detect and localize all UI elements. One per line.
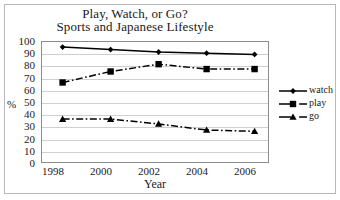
y-axis-tick: 60	[24, 84, 35, 95]
legend-label: go	[308, 110, 319, 121]
legend-item-watch[interactable]: watch	[278, 83, 338, 95]
legend-label: play	[308, 97, 326, 108]
legend-item-play[interactable]: play	[278, 96, 338, 108]
chart-legend: watchplaygo	[278, 83, 338, 122]
y-axis-tick: 10	[24, 145, 35, 156]
data-point	[59, 79, 65, 85]
data-point	[251, 66, 257, 72]
y-axis-tick: 100	[19, 36, 36, 47]
data-point	[155, 61, 161, 67]
legend-marker-triangle-icon	[278, 109, 308, 121]
y-axis-tick: 20	[24, 133, 35, 144]
y-axis-tick: 80	[24, 60, 35, 71]
x-axis-tick: 1998	[42, 165, 64, 177]
data-point	[204, 50, 210, 56]
x-axis-tick: 2002	[138, 165, 160, 177]
legend-item-go[interactable]: go	[278, 109, 338, 121]
y-axis-tick: 30	[24, 121, 35, 132]
x-axis-label: Year	[41, 178, 269, 191]
y-axis-tick: 50	[24, 97, 35, 108]
series-watch	[60, 44, 258, 57]
chart-title: Play, Watch, or Go? Sports and Japanese …	[0, 7, 270, 33]
series-go	[59, 115, 258, 134]
data-point	[107, 68, 113, 74]
data-point	[251, 128, 258, 134]
y-axis-tick: 0	[30, 158, 36, 169]
x-axis-tick: 2000	[90, 165, 112, 177]
x-axis-tick: 2006	[234, 165, 256, 177]
data-point	[203, 66, 209, 72]
y-axis-label: %	[7, 99, 16, 110]
y-axis-tick: 40	[24, 109, 35, 120]
series-layer	[41, 41, 269, 163]
data-point	[108, 47, 114, 53]
chart-subtitle: Sports and Japanese Lifestyle	[0, 20, 270, 33]
series-play	[59, 61, 257, 86]
legend-label: watch	[308, 84, 333, 95]
data-point	[252, 52, 258, 58]
y-axis-tick-labels: 0102030405060708090100	[0, 41, 38, 163]
legend-marker-diamond-icon	[278, 83, 308, 95]
chart-figure: Play, Watch, or Go? Sports and Japanese …	[0, 0, 340, 200]
legend-marker-square-icon	[278, 96, 308, 108]
x-axis-tick: 2004	[186, 165, 208, 177]
y-axis-tick: 70	[24, 72, 35, 83]
data-point	[156, 49, 162, 55]
data-point	[60, 44, 66, 50]
y-axis-tick: 90	[24, 48, 35, 59]
